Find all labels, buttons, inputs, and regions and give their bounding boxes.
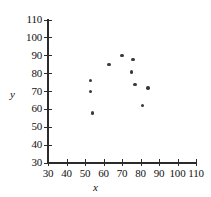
data-point [107, 63, 110, 66]
y-tick [44, 55, 52, 56]
y-tick-label: 50 [16, 121, 42, 132]
x-tick-label: 110 [185, 168, 207, 179]
y-tick-label: 30 [16, 157, 42, 168]
y-tick [44, 127, 52, 128]
x-tick [48, 159, 49, 166]
y-tick [44, 145, 52, 146]
y-tick [44, 73, 52, 74]
x-tick [196, 159, 197, 166]
x-tick [85, 159, 86, 166]
y-tick-label: 60 [16, 103, 42, 114]
y-tick [44, 91, 52, 92]
data-point [146, 86, 149, 89]
y-axis-title: y [10, 88, 15, 100]
data-point [89, 90, 92, 93]
y-tick [44, 37, 52, 38]
y-tick [44, 20, 52, 21]
x-tick [178, 159, 179, 166]
y-tick-label: 100 [16, 32, 42, 43]
data-point [89, 79, 92, 82]
x-axis-title: x [0, 181, 211, 193]
x-tick [104, 159, 105, 166]
y-tick-label: 40 [16, 139, 42, 150]
y-tick [44, 109, 52, 110]
data-point [131, 58, 134, 61]
scatter-plot: 30405060708090100110 3040506070809010011… [0, 0, 211, 197]
data-point [91, 111, 94, 114]
x-tick [159, 159, 160, 166]
x-tick [67, 159, 68, 166]
y-tick-label: 110 [16, 14, 42, 25]
x-tick [122, 159, 123, 166]
data-point [120, 54, 123, 57]
data-point [130, 70, 133, 73]
data-point [141, 104, 144, 107]
y-tick-label: 80 [16, 68, 42, 79]
x-tick [141, 159, 142, 166]
x-axis-title-text: x [93, 181, 98, 193]
y-tick-label: 70 [16, 86, 42, 97]
y-tick-label: 90 [16, 50, 42, 61]
data-point [133, 83, 136, 86]
